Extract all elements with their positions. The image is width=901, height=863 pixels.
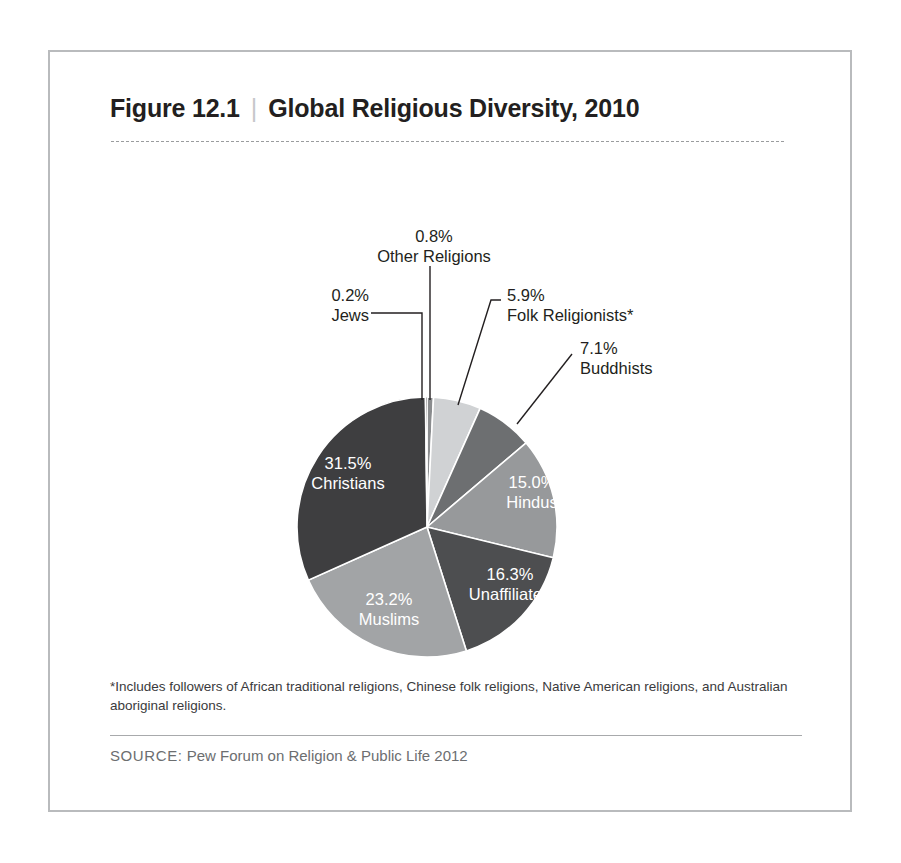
- slice-label-hindus: 15.0% Hindus: [477, 472, 587, 512]
- callout-jews: 0.2% Jews: [251, 285, 369, 325]
- figure-frame: Figure 12.1 | Global Religious Diversity…: [48, 50, 852, 812]
- slice-label-christians-pct: 31.5%: [283, 453, 413, 473]
- slice-label-unaffiliated-pct: 16.3%: [445, 564, 575, 584]
- pie-chart: 0.8% Other Religions 0.2% Jews 5.9% Folk…: [50, 148, 850, 668]
- figure-title-row: Figure 12.1 | Global Religious Diversity…: [110, 94, 639, 123]
- leader-line-jews: [371, 313, 422, 400]
- slice-label-muslims: 23.2% Muslims: [331, 589, 447, 629]
- slice-label-christians: 31.5% Christians: [283, 453, 413, 493]
- callout-buddhists-pct: 7.1%: [580, 338, 652, 358]
- slice-label-christians-name: Christians: [283, 473, 413, 493]
- source-divider: [110, 735, 802, 736]
- leader-line-buddhists: [517, 354, 572, 424]
- callout-folk-religionists-pct: 5.9%: [507, 285, 634, 305]
- callout-other-religions-name: Other Religions: [374, 246, 494, 266]
- callout-other-religions-pct: 0.8%: [374, 226, 494, 246]
- callout-buddhists-name: Buddhists: [580, 358, 652, 378]
- slice-label-unaffiliated-name: Unaffiliated: [445, 584, 575, 604]
- page-title: Global Religious Diversity, 2010: [268, 94, 639, 123]
- source-text: Pew Forum on Religion & Public Life 2012: [187, 747, 468, 764]
- slice-label-muslims-name: Muslims: [331, 609, 447, 629]
- callout-folk-religionists: 5.9% Folk Religionists*: [507, 285, 634, 325]
- callout-folk-religionists-name: Folk Religionists*: [507, 305, 634, 325]
- leader-line-folk-religionists: [458, 300, 501, 405]
- figure-number: Figure 12.1: [110, 94, 240, 123]
- callout-buddhists: 7.1% Buddhists: [580, 338, 652, 378]
- callout-other-religions: 0.8% Other Religions: [374, 226, 494, 266]
- title-separator: |: [251, 94, 258, 123]
- callout-jews-name: Jews: [251, 305, 369, 325]
- source-label: SOURCE:: [110, 747, 183, 764]
- slice-label-unaffiliated: 16.3% Unaffiliated: [445, 564, 575, 604]
- callout-jews-pct: 0.2%: [251, 285, 369, 305]
- figure-footnote: *Includes followers of African tradition…: [110, 677, 800, 715]
- slice-label-muslims-pct: 23.2%: [331, 589, 447, 609]
- slice-label-hindus-name: Hindus: [477, 492, 587, 512]
- figure-source: SOURCE: Pew Forum on Religion & Public L…: [110, 747, 468, 764]
- title-dotted-rule: [110, 140, 786, 143]
- slice-label-hindus-pct: 15.0%: [477, 472, 587, 492]
